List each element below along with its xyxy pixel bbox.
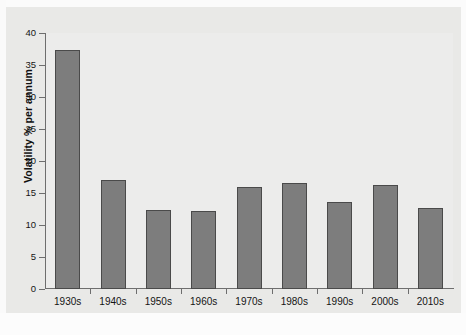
y-tick-label: 0: [14, 284, 36, 294]
figure-margin-bottom: [0, 313, 466, 335]
y-tick-mark: [39, 33, 45, 34]
y-tick-mark: [39, 129, 45, 130]
y-axis-title: Volatility % per annum: [22, 36, 34, 216]
figure-margin-left: [0, 0, 6, 335]
x-tick-label: 1990s: [317, 297, 362, 307]
y-tick-label: 10: [14, 220, 36, 230]
figure-margin-top: [0, 0, 466, 7]
bar: [237, 187, 262, 289]
figure-margin-right: [461, 0, 466, 335]
x-tick-label: 2000s: [362, 297, 407, 307]
x-tick-mark: [362, 289, 363, 294]
x-tick-label: 1930s: [45, 297, 90, 307]
bar: [373, 185, 398, 289]
x-tick-mark: [181, 289, 182, 294]
y-tick-mark: [39, 161, 45, 162]
x-tick-mark: [226, 289, 227, 294]
x-tick-mark: [136, 289, 137, 294]
y-axis-line: [45, 33, 46, 289]
bar: [327, 202, 352, 289]
bar: [282, 183, 307, 289]
y-tick-mark: [39, 65, 45, 66]
x-tick-label: 1980s: [272, 297, 317, 307]
chart-figure: 0510152025303540 1930s1940s1950s1960s197…: [0, 0, 466, 335]
x-tick-label: 1960s: [181, 297, 226, 307]
bar: [146, 210, 171, 289]
y-tick-mark: [39, 193, 45, 194]
x-tick-label: 1970s: [226, 297, 271, 307]
y-tick-mark: [39, 225, 45, 226]
y-tick-mark: [39, 97, 45, 98]
x-tick-label: 2010s: [408, 297, 453, 307]
bar: [101, 180, 126, 289]
bar: [418, 208, 443, 289]
x-tick-mark: [408, 289, 409, 294]
x-tick-mark: [90, 289, 91, 294]
y-tick-mark: [39, 257, 45, 258]
y-tick-mark: [39, 289, 45, 290]
x-tick-mark: [317, 289, 318, 294]
x-tick-label: 1950s: [136, 297, 181, 307]
y-tick-label: 5: [14, 252, 36, 262]
x-tick-label: 1940s: [90, 297, 135, 307]
bar: [191, 211, 216, 289]
bar: [55, 50, 80, 289]
x-tick-mark: [272, 289, 273, 294]
